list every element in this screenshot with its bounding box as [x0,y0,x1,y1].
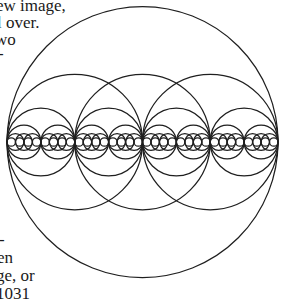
level-5-circle [202,138,210,146]
level-5-circle [261,138,269,146]
level-5-circle [83,138,91,146]
level-5-circle [32,138,40,146]
level-5-circle [176,138,184,146]
level-5-circle [15,138,23,146]
level-5-circle [58,138,66,146]
level-5-circle [117,138,125,146]
level-5-circle [66,138,74,146]
level-5-circle [193,138,201,146]
level-5-circle [100,138,108,146]
level-5-circle [227,138,235,146]
level-5-circle [253,138,261,146]
level-5-circle [151,138,159,146]
level-5-circle [185,138,193,146]
level-5-circle [134,138,142,146]
level-5-circle [24,138,32,146]
level-5-circle [168,138,176,146]
level-5-circle [75,138,83,146]
level-5-circle [244,138,252,146]
level-5-circle [159,138,167,146]
level-5-circle [92,138,100,146]
level-5-circle [270,138,278,146]
level-5-circle [49,138,57,146]
level-5-circle [109,138,117,146]
level-5-circle [41,138,49,146]
level-5-circle [7,138,15,146]
level-5-circle [219,138,227,146]
level-5-circle [143,138,151,146]
level-5-circle [236,138,244,146]
level-5-circle [210,138,218,146]
level-5-circle [126,138,134,146]
